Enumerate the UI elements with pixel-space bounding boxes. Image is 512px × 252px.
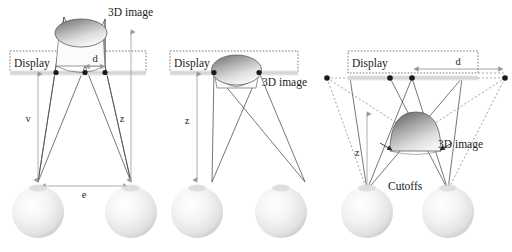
panel-right-display-dot-2 bbox=[409, 75, 415, 81]
panel-right-display-dot-left-edge bbox=[324, 75, 330, 81]
panel-right-display-label: Display bbox=[352, 57, 388, 70]
panel-middle-display-label: Display bbox=[174, 57, 210, 70]
panel-right-display-dot-1 bbox=[387, 75, 393, 81]
panel-left-display-dot-2 bbox=[82, 70, 87, 75]
panel-middle-image-label: 3D image bbox=[262, 76, 307, 89]
panel-middle-display-dot-1 bbox=[211, 70, 216, 75]
panel-left-label-d: d bbox=[92, 53, 98, 64]
panel-left-display-dot-1 bbox=[53, 70, 58, 75]
panel-left-label-e: e bbox=[82, 189, 87, 200]
panel-middle-3d-image bbox=[212, 55, 262, 88]
panel-left-display-bar bbox=[10, 71, 146, 76]
panel-left-label-v: v bbox=[25, 113, 31, 124]
panel-middle-display-dot-2 bbox=[256, 70, 261, 75]
panel-middle-label-z: z bbox=[185, 115, 190, 126]
panel-left-image-label: 3D image bbox=[108, 6, 153, 19]
figure-root: d v z e Display 3D image bbox=[0, 0, 512, 252]
panel-right-label-d: d bbox=[455, 56, 461, 67]
panel-left-3d-image bbox=[55, 19, 107, 73]
three-panel-stereoscopic-diagram: d v z e Display 3D image bbox=[0, 0, 512, 252]
panel-right-cutoffs-label: Cutoffs bbox=[388, 180, 423, 192]
panel-left-label-z: z bbox=[120, 113, 125, 124]
panel-right-display-dot-right-edge bbox=[502, 75, 508, 81]
panel-right-image-label: 3D image bbox=[438, 138, 483, 151]
panel-left-display-dot-3 bbox=[102, 70, 107, 75]
panel-left-display-label: Display bbox=[14, 57, 50, 70]
panel-right-label-z: z bbox=[355, 147, 360, 158]
